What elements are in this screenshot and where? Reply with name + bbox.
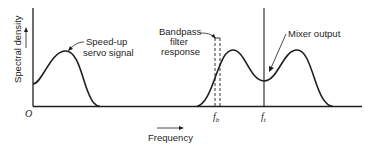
- mixer-leader-arrow: [271, 34, 286, 68]
- bandpass-label-line3: response: [161, 46, 200, 57]
- origin-label: O: [25, 108, 32, 119]
- mixer-output-curve: [197, 50, 333, 107]
- ft-tick-label: ft: [261, 111, 267, 124]
- y-axis-label: Spectral density: [12, 15, 23, 83]
- mixer-label: Mixer output: [288, 28, 341, 39]
- servo-label-line1: Speed-up: [86, 36, 127, 47]
- fb-tick-label: fb: [213, 111, 220, 124]
- bandpass-arrowhead-icon: [211, 34, 216, 39]
- ft-sub: t: [264, 116, 267, 124]
- servo-signal-curve: [33, 51, 100, 107]
- y-label-arrowhead-icon: [24, 27, 28, 32]
- x-axis-label: Frequency: [148, 132, 193, 143]
- servo-leader-arrow: [70, 42, 84, 49]
- spectral-density-diagram: Spectral density O Speed-up servo signal…: [0, 0, 365, 150]
- servo-label-line2: servo signal: [83, 47, 134, 58]
- fb-sub: b: [216, 116, 220, 124]
- x-label-arrowhead-icon: [179, 126, 184, 130]
